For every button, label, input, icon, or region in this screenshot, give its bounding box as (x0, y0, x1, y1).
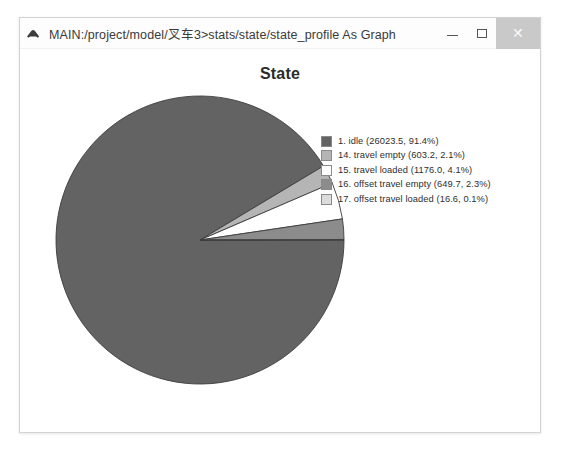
legend-label: 15. travel loaded (1176.0, 4.1%) (338, 165, 472, 176)
legend-swatch (321, 179, 332, 190)
pie-slices (56, 96, 344, 384)
window-controls: ✕ (438, 18, 540, 49)
legend-label: 16. offset travel empty (649.7, 2.3%) (338, 179, 491, 190)
close-button[interactable]: ✕ (496, 18, 540, 49)
close-icon: ✕ (512, 26, 524, 40)
legend-item[interactable]: 16. offset travel empty (649.7, 2.3%) (321, 178, 527, 192)
minimize-icon (447, 35, 458, 36)
chart-legend: 1. idle (26023.5, 91.4%)14. travel empty… (321, 134, 527, 207)
window-title: MAIN:/project/model/叉车3>stats/state/stat… (49, 24, 438, 43)
maximize-button[interactable] (467, 18, 496, 49)
pie-slice[interactable] (200, 239, 344, 240)
window-titlebar[interactable]: MAIN:/project/model/叉车3>stats/state/stat… (20, 18, 540, 49)
legend-swatch (321, 194, 332, 205)
chart-client-area: State 1. idle (26023.5, 91.4%)14. travel… (20, 49, 540, 432)
chart-title: State (20, 65, 540, 83)
legend-item[interactable]: 1. idle (26023.5, 91.4%) (321, 134, 527, 148)
pie-chart-svg (55, 95, 345, 385)
pie-chart (55, 95, 345, 385)
minimize-button[interactable] (438, 18, 467, 49)
legend-swatch (321, 150, 332, 161)
chart-peak-icon (27, 26, 43, 42)
legend-item[interactable]: 17. offset travel loaded (16.6, 0.1%) (321, 192, 527, 206)
legend-label: 1. idle (26023.5, 91.4%) (338, 136, 439, 147)
legend-swatch (321, 136, 332, 147)
maximize-icon (477, 29, 487, 38)
legend-label: 17. offset travel loaded (16.6, 0.1%) (338, 194, 488, 205)
legend-item[interactable]: 14. travel empty (603.2, 2.1%) (321, 149, 527, 163)
legend-item[interactable]: 15. travel loaded (1176.0, 4.1%) (321, 163, 527, 177)
legend-swatch (321, 165, 332, 176)
legend-label: 14. travel empty (603.2, 2.1%) (338, 150, 465, 161)
graph-window: MAIN:/project/model/叉车3>stats/state/stat… (19, 17, 541, 433)
